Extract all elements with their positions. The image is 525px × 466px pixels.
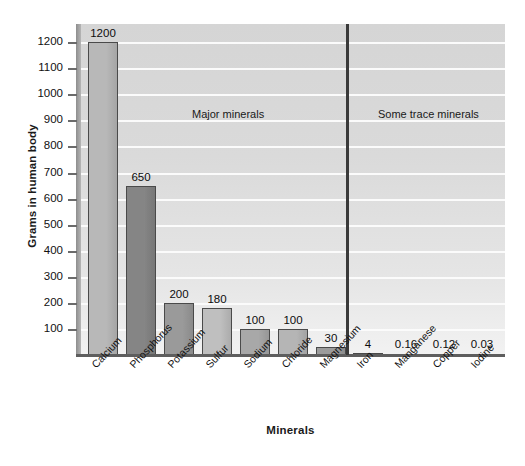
gridline (76, 120, 505, 122)
y-axis-tick-label: 1200 (0, 35, 63, 47)
y-axis-tick-label: 1100 (0, 61, 63, 73)
bar-calcium (88, 42, 118, 355)
gridline (76, 68, 505, 70)
mineral-content-bar-chart: Grams in human body 10020030040050060070… (0, 0, 525, 466)
y-axis-tick-label: 900 (0, 113, 63, 125)
y-axis-tick-mark (68, 68, 77, 70)
y-axis-tick-label: 700 (0, 166, 63, 178)
y-axis-tick-mark (68, 146, 77, 148)
y-axis-tick-label: 500 (0, 218, 63, 230)
annotation-major-minerals: Major minerals (192, 108, 264, 120)
y-axis-tick-mark (68, 303, 77, 305)
y-axis-title: Grams in human body (26, 76, 38, 296)
y-axis-tick-mark (68, 120, 77, 122)
y-axis-tick-label: 100 (0, 322, 63, 334)
y-axis-tick-label: 200 (0, 296, 63, 308)
y-axis-tick-label: 800 (0, 139, 63, 151)
x-axis-title: Minerals (76, 424, 505, 436)
bar-value-chloride: 100 (270, 314, 316, 326)
bar-value-sulfur: 180 (194, 293, 240, 305)
bar-value-phosphorus: 650 (118, 171, 164, 183)
y-axis-tick-mark (68, 251, 77, 253)
y-axis-tick-mark (68, 329, 77, 331)
section-divider-line (346, 24, 349, 355)
y-axis-tick-mark (68, 199, 77, 201)
gridline (76, 42, 505, 44)
y-axis-tick-mark (68, 225, 77, 227)
gridline (76, 94, 505, 96)
y-axis-tick-label: 600 (0, 192, 63, 204)
bar-value-calcium: 1200 (80, 27, 126, 39)
y-axis-spine (76, 24, 81, 355)
y-axis-tick-label: 300 (0, 270, 63, 282)
y-axis-tick-mark (68, 277, 77, 279)
y-axis-tick-label: 1000 (0, 87, 63, 99)
y-axis-tick-mark (68, 173, 77, 175)
y-axis-tick-label: 400 (0, 244, 63, 256)
plot-area (76, 24, 505, 355)
y-axis-tick-mark (68, 94, 77, 96)
annotation-trace-minerals: Some trace minerals (378, 108, 479, 120)
gridline (76, 146, 505, 148)
bar-phosphorus (126, 186, 156, 355)
y-axis-tick-mark (68, 42, 77, 44)
